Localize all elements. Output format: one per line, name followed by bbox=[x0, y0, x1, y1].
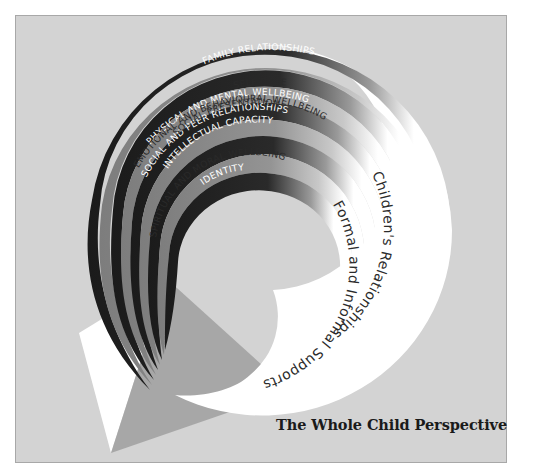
diagram-title: The Whole Child Perspective bbox=[276, 416, 507, 433]
whole-child-diagram: FAMILY RELATIONSHIPS SELF CARE PHYSICAL … bbox=[0, 0, 534, 474]
